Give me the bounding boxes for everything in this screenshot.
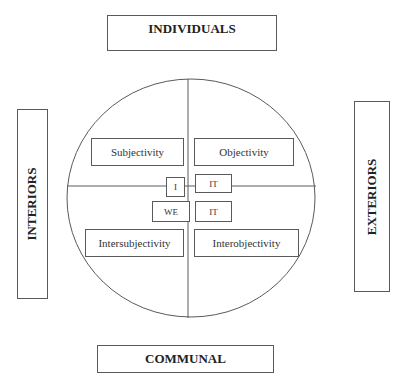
i-box: I — [166, 177, 185, 197]
communal-label: COMMUNAL — [145, 351, 226, 367]
objectivity-box: Objectivity — [194, 138, 294, 166]
objectivity-label: Objectivity — [219, 146, 269, 158]
it-upper-label: IT — [209, 179, 218, 189]
intersubjectivity-label: Intersubjectivity — [98, 237, 170, 249]
it-lower-label: IT — [209, 207, 218, 217]
quadrant-circle-diagram — [0, 0, 408, 389]
we-box: WE — [152, 201, 190, 222]
individuals-box: INDIVIDUALS — [107, 15, 277, 51]
interiors-box: INTERIORS — [17, 109, 48, 299]
subjectivity-box: Subjectivity — [91, 138, 184, 166]
i-label: I — [174, 182, 177, 192]
subjectivity-label: Subjectivity — [111, 146, 164, 158]
it-upper-box: IT — [195, 174, 232, 193]
exteriors-box: EXTERIORS — [354, 101, 390, 292]
communal-box: COMMUNAL — [97, 345, 274, 373]
interiors-label: INTERIORS — [25, 168, 41, 241]
we-label: WE — [164, 207, 178, 217]
intersubjectivity-box: Intersubjectivity — [85, 229, 184, 257]
individuals-label: INDIVIDUALS — [148, 21, 235, 37]
interobjectivity-label: Interobjectivity — [213, 237, 281, 249]
interobjectivity-box: Interobjectivity — [194, 229, 299, 257]
outer-circle — [67, 79, 315, 317]
it-lower-box: IT — [195, 201, 232, 222]
exteriors-label: EXTERIORS — [364, 158, 380, 235]
